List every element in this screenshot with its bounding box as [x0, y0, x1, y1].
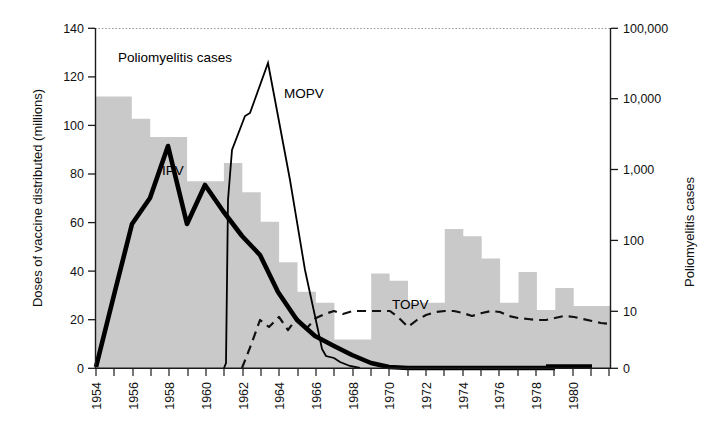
right-tick-10: 10: [623, 305, 637, 319]
x-tick-1960: 1960: [200, 382, 214, 410]
chart-canvas: 0 20 40 60 80 100 120 140 Doses of vacci…: [0, 0, 719, 423]
left-tick-20: 20: [70, 313, 84, 327]
x-tick-1970: 1970: [383, 382, 397, 410]
x-tick-1956: 1956: [127, 382, 141, 410]
left-tick-140: 140: [63, 22, 84, 36]
right-tick-100: 100: [623, 234, 644, 248]
poliomyelitis-vaccine-chart: 0 20 40 60 80 100 120 140 Doses of vacci…: [0, 0, 719, 423]
left-tick-120: 120: [63, 70, 84, 84]
label-mopv: MOPV: [284, 86, 324, 101]
left-tick-80: 80: [70, 167, 84, 181]
label-poliomyelitis-cases: Poliomyelitis cases: [118, 50, 232, 65]
left-axis-title: Doses of vaccine distributed (millions): [30, 89, 45, 307]
x-tick-1954: 1954: [90, 382, 104, 410]
x-tick-1968: 1968: [347, 382, 361, 410]
x-tick-1966: 1966: [310, 382, 324, 410]
left-tick-0: 0: [77, 362, 84, 376]
right-tick-10000: 10,000: [623, 92, 661, 106]
right-tick-100000: 100,000: [623, 22, 668, 36]
label-ipv: IPV: [162, 163, 184, 178]
x-tick-1958: 1958: [163, 382, 177, 410]
left-tick-40: 40: [70, 265, 84, 279]
x-tick-1972: 1972: [420, 382, 434, 410]
x-tick-1978: 1978: [530, 382, 544, 410]
x-tick-1964: 1964: [273, 382, 287, 410]
x-tick-1976: 1976: [493, 382, 507, 410]
x-tick-1962: 1962: [237, 382, 251, 410]
left-tick-100: 100: [63, 119, 84, 133]
right-axis-title: Poliomyelitis cases: [682, 177, 697, 287]
label-topv: TOPV: [392, 297, 429, 312]
right-tick-1000: 1,000: [623, 163, 654, 177]
x-tick-1974: 1974: [457, 382, 471, 410]
x-tick-1980: 1980: [567, 382, 581, 410]
left-tick-60: 60: [70, 216, 84, 230]
right-tick-0: 0: [623, 362, 630, 376]
